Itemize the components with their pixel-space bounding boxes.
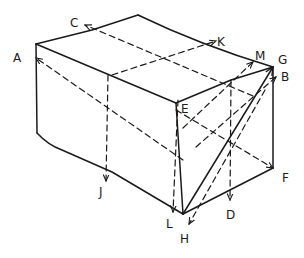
labels: A C K M G B E F D J L H: [13, 16, 289, 246]
label-M: M: [255, 49, 265, 63]
arrow-K: [112, 41, 216, 75]
arrow-D: [230, 80, 231, 200]
left-vertical-edge: [36, 44, 37, 133]
top-right-front-edge: [176, 67, 273, 103]
label-J: J: [98, 185, 103, 199]
top-back-edge: [36, 15, 138, 44]
arrow-A: [36, 58, 183, 160]
label-G: G: [278, 53, 287, 67]
label-H: H: [180, 232, 189, 246]
label-K: K: [217, 35, 226, 49]
label-A: A: [13, 51, 22, 65]
label-D: D: [226, 208, 235, 222]
label-E: E: [181, 102, 189, 116]
label-L: L: [166, 217, 173, 231]
top-front-edge: [36, 44, 176, 103]
label-B: B: [281, 70, 289, 84]
label-F: F: [282, 171, 289, 185]
dashed-arrows: [36, 25, 276, 224]
box-outline: [36, 15, 273, 214]
arrow-J: [106, 75, 108, 181]
arrow-F: [176, 110, 273, 168]
label-C: C: [70, 16, 78, 30]
top-right-edge: [138, 15, 273, 67]
box-diagram: A C K M G B E F D J L H: [0, 0, 304, 258]
arrow-B: [196, 77, 276, 147]
